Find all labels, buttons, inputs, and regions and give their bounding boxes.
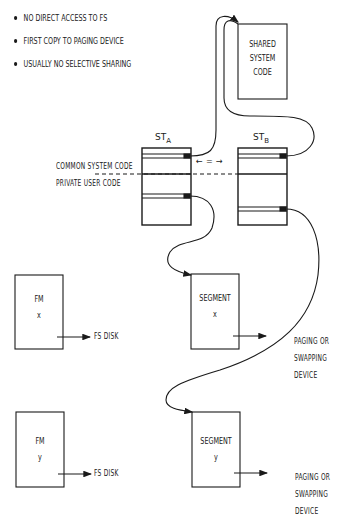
- segment-table-a: [142, 148, 191, 225]
- segment-id: y: [197, 450, 235, 466]
- fm-title: FM: [20, 292, 58, 308]
- segment-title: SEGMENT: [197, 434, 235, 450]
- bullet-list: NO DIRECT ACCESS TO FS FIRST COPY TO PAG…: [14, 14, 161, 83]
- shared-line: CODE: [243, 66, 282, 80]
- bullet-item: FIRST COPY TO PAGING DEVICE: [14, 37, 131, 60]
- segment-x-label: SEGMENT x: [191, 291, 239, 323]
- common-system-code-label: COMMON SYSTEM CODE: [56, 162, 133, 171]
- fm-title: FM: [21, 434, 59, 450]
- segment-table-b: [238, 148, 287, 225]
- bullet-item: USUALLY NO SELECTIVE SHARING: [14, 60, 131, 83]
- fs-disk-label: FS DISK: [94, 469, 119, 478]
- paging-device-label-y: PAGING OR SWAPPING DEVICE: [295, 469, 330, 520]
- fm-y-label: FM y: [16, 434, 64, 466]
- bullet-text: USUALLY NO SELECTIVE SHARING: [24, 60, 132, 69]
- private-user-code-label: PRIVATE USER CODE: [56, 179, 121, 188]
- fm-x-label: FM x: [15, 292, 63, 324]
- fs-disk-label: FS DISK: [94, 332, 119, 341]
- fm-id: x: [20, 308, 58, 324]
- bullet-text: FIRST COPY TO PAGING DEVICE: [24, 37, 124, 46]
- paging-device-label-x: PAGING OR SWAPPING DEVICE: [294, 333, 329, 384]
- equivalence-symbol: ← = →: [196, 156, 223, 166]
- fm-id: y: [21, 450, 59, 466]
- segment-title: SEGMENT: [196, 291, 234, 307]
- link-sta-to-shared: [190, 16, 238, 156]
- st-a-label: STA: [155, 132, 171, 145]
- shared-code-label: SHARED SYSTEM CODE: [238, 38, 287, 80]
- segment-id: x: [196, 307, 234, 323]
- bullet-dot-icon: [14, 16, 17, 20]
- shared-line: SYSTEM: [243, 52, 282, 66]
- bullet-dot-icon: [14, 39, 17, 43]
- bullet-dot-icon: [14, 62, 17, 66]
- shared-line: SHARED: [243, 38, 282, 52]
- bullet-text: NO DIRECT ACCESS TO FS: [24, 14, 108, 23]
- st-b-label: STB: [253, 132, 269, 145]
- bullet-item: NO DIRECT ACCESS TO FS: [14, 14, 131, 37]
- segment-y-label: SEGMENT y: [192, 434, 240, 466]
